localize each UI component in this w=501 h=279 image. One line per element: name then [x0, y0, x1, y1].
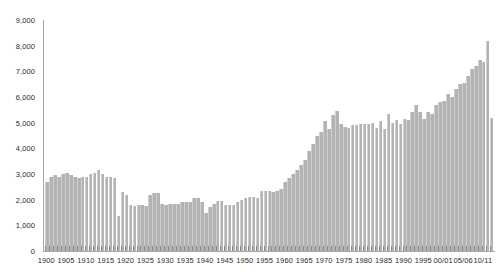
x-axis-tick [144, 246, 145, 251]
x-axis-tick-label: 1950 [236, 256, 253, 265]
x-axis-tick [379, 246, 380, 251]
x-axis-tick [367, 246, 368, 251]
x-axis-tick [295, 246, 296, 251]
x-axis-tick [418, 246, 419, 251]
x-axis-tick-label: 1965 [296, 256, 313, 265]
x-axis-tick [240, 246, 241, 251]
y-axis-tick-label: 3,000 [16, 170, 35, 179]
x-axis-tick [172, 246, 173, 251]
x-axis-tick-label: 1995 [415, 256, 432, 265]
x-axis-ticks [44, 246, 495, 252]
x-axis-tick [69, 246, 70, 251]
x-axis-tick [478, 246, 479, 251]
x-axis-tick [188, 246, 189, 251]
x-axis-tick [299, 246, 300, 251]
x-axis-tick-label: 1925 [137, 256, 154, 265]
x-axis-tick [474, 246, 475, 251]
x-axis-tick-label: 00/01 [434, 256, 453, 265]
x-axis-tick [347, 246, 348, 251]
x-axis-tick-label: 1915 [97, 256, 114, 265]
x-axis-tick [208, 246, 209, 251]
x-axis-tick [446, 246, 447, 251]
x-axis-tick [458, 246, 459, 251]
x-axis-tick [176, 246, 177, 251]
x-axis-tick [109, 246, 110, 251]
x-axis-tick [287, 246, 288, 251]
x-axis-tick-label: 1960 [276, 256, 293, 265]
x-axis-tick [462, 246, 463, 251]
x-axis-tick-label: 1955 [256, 256, 273, 265]
x-axis-tick [470, 246, 471, 251]
x-axis-tick [339, 246, 340, 251]
y-axis-tick-label: 2,000 [16, 195, 35, 204]
x-axis-tick [81, 246, 82, 251]
x-axis-tick [351, 246, 352, 251]
x-axis-tick [466, 246, 467, 251]
x-axis-tick [434, 246, 435, 251]
x-axis-tick [152, 246, 153, 251]
x-axis-tick [140, 246, 141, 251]
x-axis-tick [133, 246, 134, 251]
x-axis-tick [410, 246, 411, 251]
x-axis-tick-label: 1935 [177, 256, 194, 265]
x-axis-tick-label: 1980 [355, 256, 372, 265]
x-axis-tick [482, 246, 483, 251]
x-axis-tick [212, 246, 213, 251]
x-axis-tick [395, 246, 396, 251]
x-axis-tick [168, 246, 169, 251]
y-axis-tick-label: 6,000 [16, 93, 35, 102]
x-axis-tick [248, 246, 249, 251]
x-axis-tick [93, 246, 94, 251]
x-axis-tick [486, 246, 487, 251]
x-axis-tick [391, 246, 392, 251]
x-axis-tick [268, 246, 269, 251]
x-axis-tick [260, 246, 261, 251]
x-axis-tick [442, 246, 443, 251]
x-axis-tick [156, 246, 157, 251]
x-axis-tick-label: 1900 [38, 256, 55, 265]
x-axis-tick-label: 1940 [196, 256, 213, 265]
x-axis-tick [220, 246, 221, 251]
x-axis-tick [200, 246, 201, 251]
y-axis-tick-label: 7,000 [16, 67, 35, 76]
x-axis-tick-label: 1920 [117, 256, 134, 265]
stray-mark-artifact [411, 43, 418, 50]
x-axis-tick [252, 246, 253, 251]
x-axis-tick-label: 1905 [58, 256, 75, 265]
x-axis-tick [343, 246, 344, 251]
x-axis-tick [430, 246, 431, 251]
x-axis-tick [363, 246, 364, 251]
x-axis-tick [228, 246, 229, 251]
x-axis-tick [399, 246, 400, 251]
x-axis-tick [291, 246, 292, 251]
y-axis-tick-label: 0 [31, 247, 35, 256]
x-axis-tick [129, 246, 130, 251]
x-axis-tick [49, 246, 50, 251]
x-axis-tick [148, 246, 149, 251]
x-axis-tick [224, 246, 225, 251]
x-axis-tick [164, 246, 165, 251]
x-axis-tick [279, 246, 280, 251]
bar [490, 118, 494, 251]
x-axis-tick [454, 246, 455, 251]
x-axis-tick [426, 246, 427, 251]
x-axis-tick [303, 246, 304, 251]
y-axis-tick-label: 5,000 [16, 118, 35, 127]
y-axis-tick-label: 1,000 [16, 221, 35, 230]
x-axis-tick [450, 246, 451, 251]
x-axis-tick [319, 246, 320, 251]
x-axis-tick [490, 246, 491, 251]
x-axis-tick [359, 246, 360, 251]
x-axis-tick-label: 1970 [316, 256, 333, 265]
x-axis-tick [256, 246, 257, 251]
x-axis-tick [307, 246, 308, 251]
x-axis-tick [371, 246, 372, 251]
x-axis-tick [275, 246, 276, 251]
y-axis-tick-labels: 01,0002,0003,0004,0005,0006,0007,0008,00… [0, 0, 40, 279]
x-axis-tick [264, 246, 265, 251]
x-axis-tick [97, 246, 98, 251]
x-axis-tick-label: 1930 [157, 256, 174, 265]
bar-chart: 01,0002,0003,0004,0005,0006,0007,0008,00… [0, 0, 501, 279]
x-axis-tick [184, 246, 185, 251]
x-axis-tick-label: 1985 [375, 256, 392, 265]
